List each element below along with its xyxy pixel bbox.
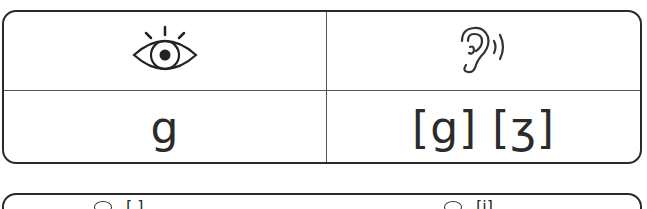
card-body-row: g [g] [ʒ] (4, 91, 640, 164)
next-card-right: [i] (444, 197, 493, 209)
next-card-left: [ ] (94, 197, 144, 209)
letter: g (151, 102, 180, 153)
header-cell-see (4, 12, 327, 90)
card-header-row (4, 12, 640, 91)
letter-cell: g (4, 91, 327, 164)
sounds-cell: [g] [ʒ] (327, 91, 640, 164)
sound-transcriptions: [g] [ʒ] (412, 102, 555, 153)
next-card-right-text: [i] (476, 197, 493, 209)
eye-icon (132, 25, 198, 77)
next-card-partial: [ ] [i] (2, 193, 642, 209)
header-cell-hear (327, 12, 640, 90)
grapheme-card: g [g] [ʒ] (2, 10, 642, 164)
eye-icon (94, 201, 112, 209)
ear-sound-icon (456, 23, 512, 79)
next-card-left-text: [ ] (126, 197, 144, 209)
eye-icon (444, 201, 462, 209)
